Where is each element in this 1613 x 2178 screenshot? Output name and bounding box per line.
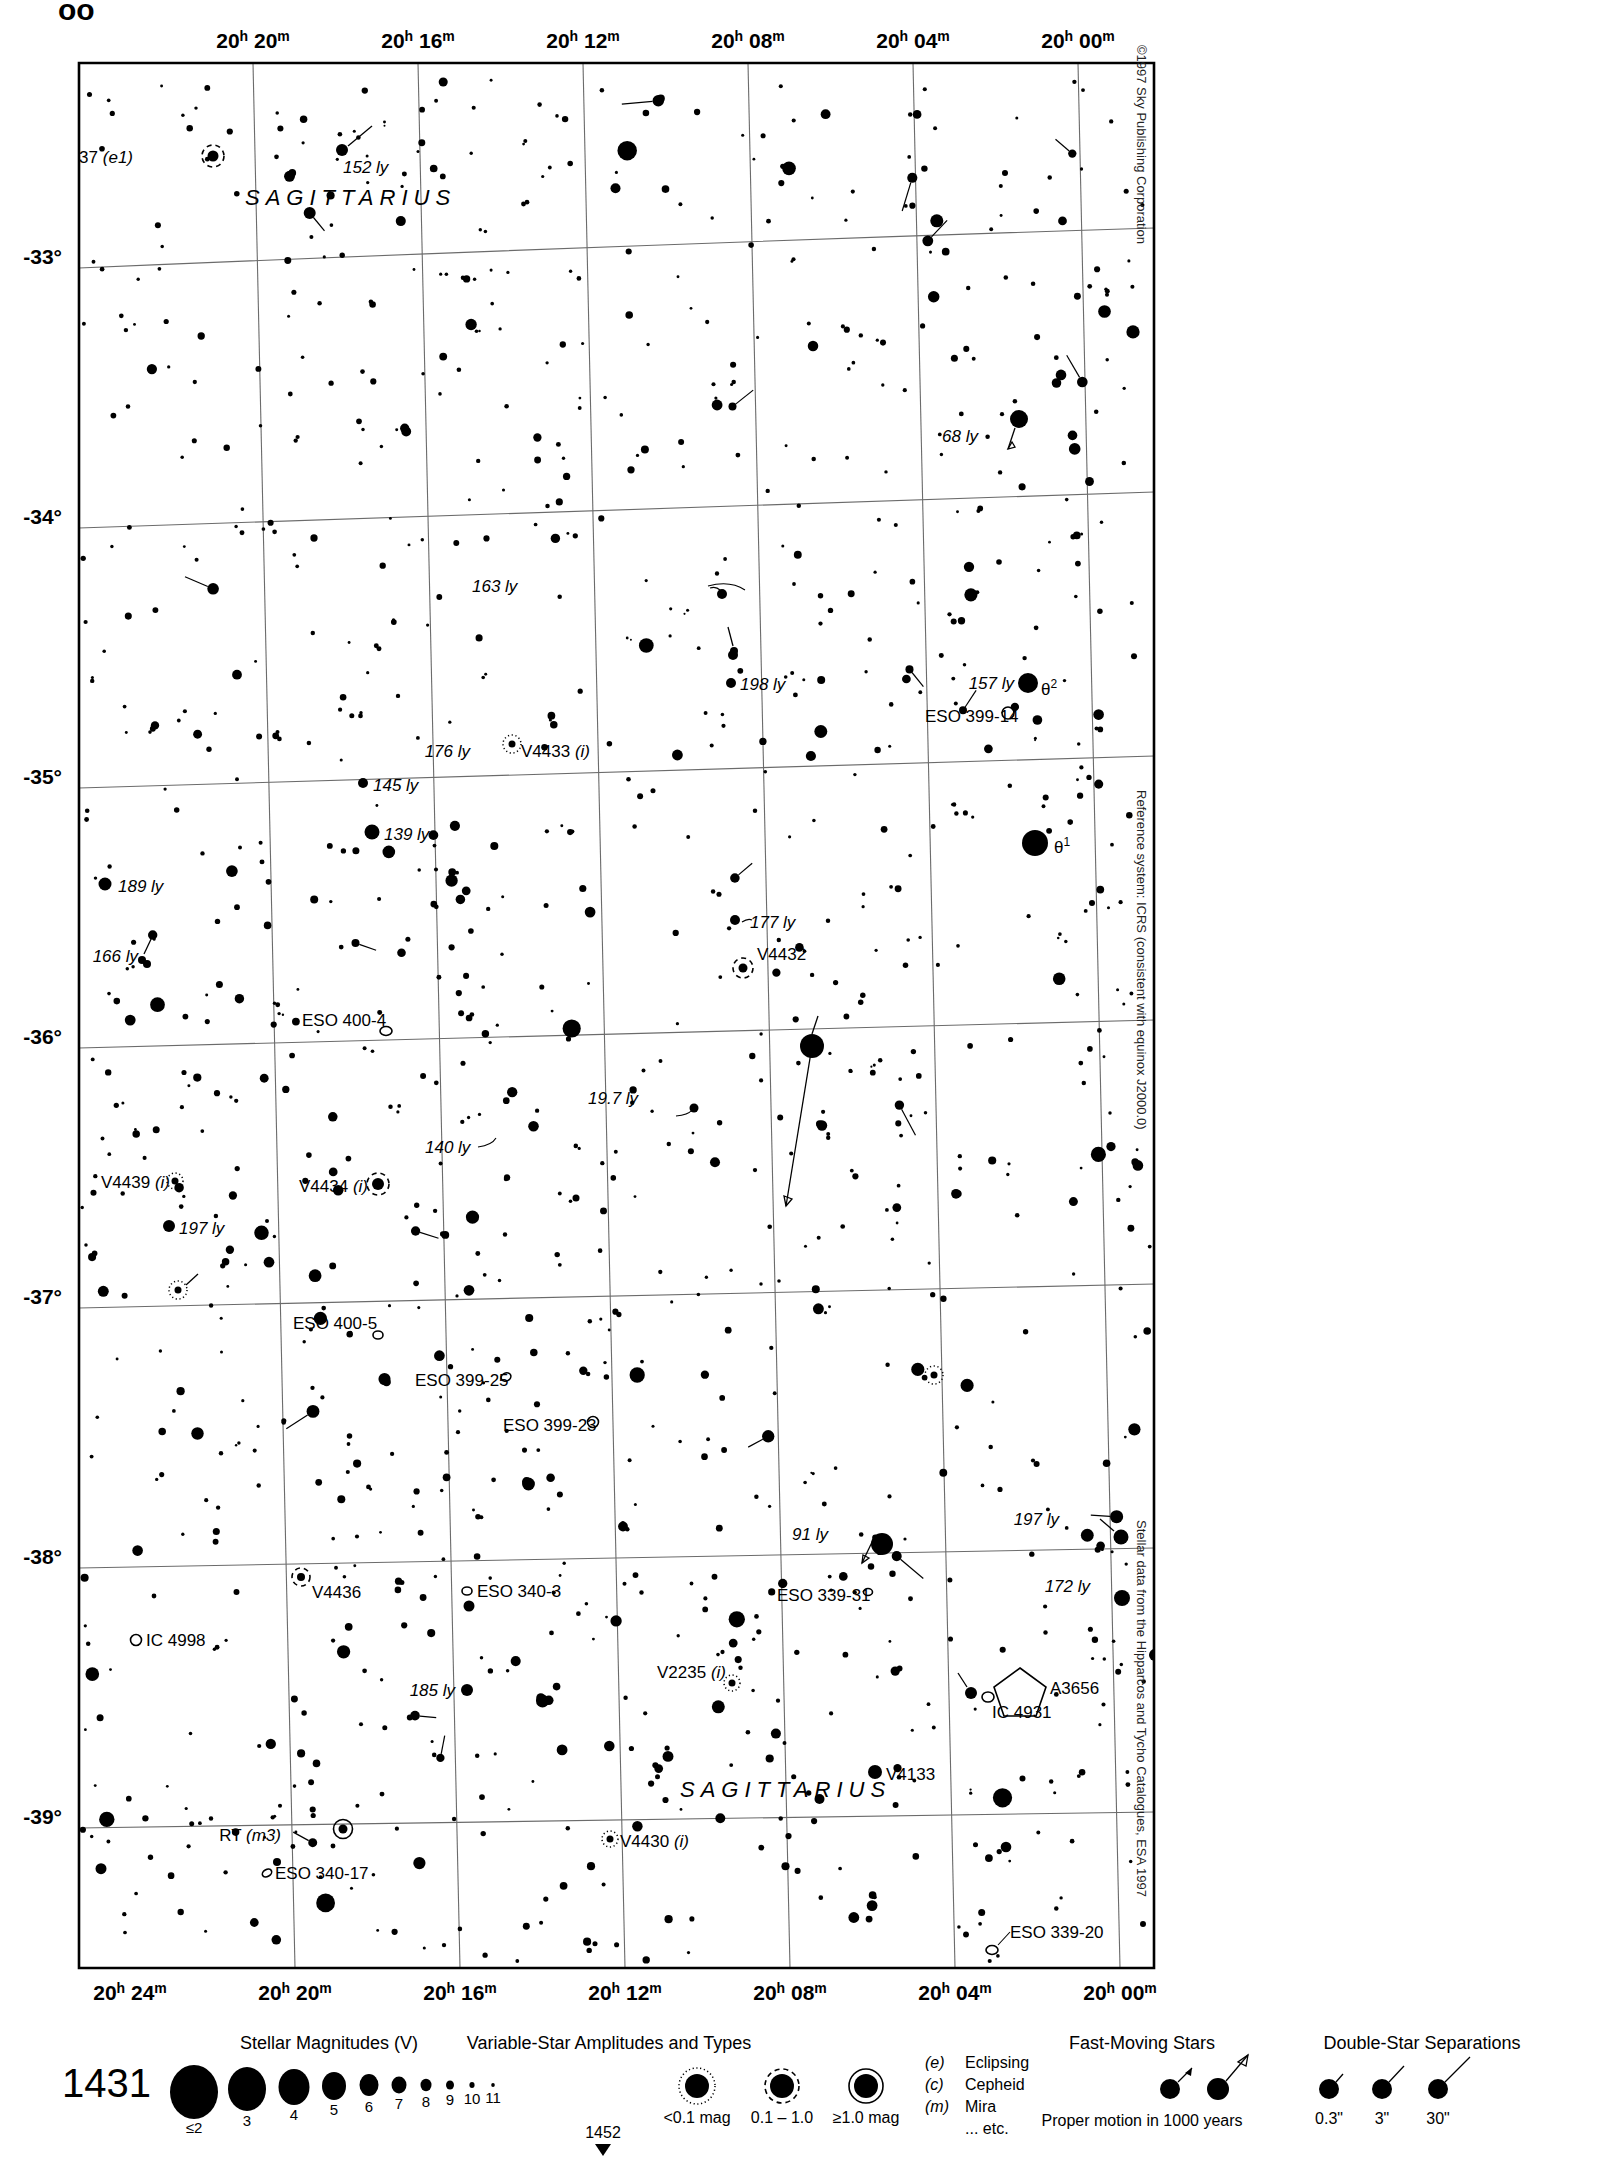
ra-tick-bottom-1: 20h 20m: [258, 1980, 332, 2004]
label-189ly: 189 ly: [118, 877, 165, 896]
legend-mag-3: 5: [330, 2101, 338, 2118]
star-177ly: [730, 915, 740, 925]
label-a3656: A3656: [1050, 1679, 1099, 1698]
legend-mag-8: 10: [464, 2090, 481, 2107]
adjacent-chart-number: 1452: [585, 2124, 621, 2141]
legend-double-1: 3": [1375, 2110, 1390, 2127]
object-theta2: [1018, 673, 1038, 693]
star-197ly-right: [1114, 1530, 1129, 1545]
label-177ly: 177 ly: [750, 913, 797, 932]
legend-var-amp-1: 0.1 – 1.0: [751, 2109, 813, 2126]
ra-tick-top-1: 20h 16m: [381, 28, 455, 52]
label-v4436: V4436: [312, 1583, 361, 1602]
legend-mag-9: 11: [485, 2089, 501, 2106]
label-v4434: V4434 (i): [299, 1177, 368, 1196]
label-157ly: 157 ly: [969, 674, 1016, 693]
dec-tick-3: -36°: [23, 1025, 62, 1048]
ra-tick-bottom-5: 20h 04m: [918, 1980, 992, 2004]
label-152ly: 152 ly: [343, 158, 390, 177]
label-v4432: V4432: [757, 945, 806, 964]
legend-mag-4: 6: [365, 2098, 373, 2115]
label-v4439: V4439 (i): [101, 1173, 170, 1192]
star-172ly: [1114, 1590, 1130, 1606]
label-v4133: V4133: [886, 1765, 935, 1784]
star-theta1: [1022, 830, 1048, 856]
ra-tick-top-3: 20h 08m: [711, 28, 785, 52]
star-197ly-left: [163, 1220, 175, 1232]
constellation-label-sagittarius-top: SAGITTARIUS: [245, 185, 456, 210]
label-91ly: 91 ly: [792, 1525, 829, 1544]
label-rt: RT (m3): [219, 1826, 281, 1845]
ra-tick-bottom-0: 20h 24m: [93, 1980, 167, 2004]
ra-tick-top-2: 20h 12m: [546, 28, 620, 52]
credit-data-source: Stellar data from the Hipparcos and Tych…: [1134, 1520, 1149, 1897]
star-145ly: [358, 778, 368, 788]
label-eso-339-25: ESO 339-25: [1168, 1647, 1262, 1666]
dec-tick-6: -39°: [23, 1805, 62, 1828]
legend-variables-title: Variable-Star Amplitudes and Types: [467, 2033, 752, 2053]
sky-map-area: V4437 (e1) 152 ly 68 ly 163 ly: [49, 63, 1262, 1968]
legend-mag-7: 9: [446, 2091, 454, 2108]
label-198ly: 198 ly: [740, 675, 787, 694]
legend-variable-stars: Variable-Star Amplitudes and Types <0.1 …: [467, 2033, 1029, 2137]
label-eso-400-4: ESO 400-4: [302, 1011, 386, 1030]
dec-tick-1: -34°: [23, 505, 62, 528]
legend-double-2: 30": [1426, 2110, 1449, 2127]
label-ic-4998: IC 4998: [146, 1631, 206, 1650]
star-139ly: [365, 825, 380, 840]
label-185ly: 185 ly: [410, 1681, 457, 1700]
label-ic-4931: IC 4931: [992, 1703, 1052, 1722]
label-eso-339-31: ESO 339-31: [777, 1586, 871, 1605]
ra-labels-top: 20h 20m 20h 16m 20h 12m 20h 08m 20h 04m …: [216, 28, 1115, 52]
legend-stellar-magnitudes: Stellar Magnitudes (V) ≤2 3 4 5 6 7 8 9 …: [170, 2033, 501, 2136]
label-eso-339-20: ESO 339-20: [1010, 1923, 1104, 1942]
label-145ly: 145 ly: [373, 776, 420, 795]
label-v2235: V2235 (i): [657, 1663, 726, 1682]
label-172ly: 172 ly: [1045, 1577, 1092, 1596]
label-163ly: 163 ly: [472, 577, 519, 596]
ra-tick-top-5: 20h 00m: [1041, 28, 1115, 52]
legend-magnitudes-title: Stellar Magnitudes (V): [240, 2033, 418, 2053]
legend-double-0: 0.3": [1315, 2110, 1343, 2127]
page-top-partial: ᴏᴏ: [58, 0, 95, 26]
legend-mag-5: 7: [395, 2095, 403, 2112]
ra-tick-bottom-4: 20h 08m: [753, 1980, 827, 2004]
legend-var-type-code-2: (m): [925, 2098, 949, 2115]
label-v4433: V4433 (i): [521, 742, 590, 761]
label-139ly: 139 ly: [384, 825, 431, 844]
legend-fastmoving-caption: Proper motion in 1000 years: [1042, 2112, 1243, 2129]
legend-mag-0: ≤2: [186, 2119, 203, 2136]
legend-var-type-code-1: (c): [925, 2076, 944, 2093]
galaxy-eso-339-25: [1156, 1648, 1166, 1656]
legend-double-star-separations: Double-Star Separations 0.3" 3" 30": [1315, 2033, 1521, 2127]
label-176ly: 176 ly: [425, 742, 472, 761]
dec-tick-4: -37°: [23, 1285, 62, 1308]
credit-copyright: ©1997 Sky Publishing Corporation: [1134, 45, 1149, 244]
legend-var-type-name-1: Cepheid: [965, 2076, 1025, 2093]
dec-labels: -33° -34° -35° -36° -37° -38° -39°: [23, 245, 62, 1828]
legend-mag-2: 4: [290, 2106, 298, 2123]
chart-number: 1431: [62, 2061, 151, 2105]
star-189ly: [99, 878, 112, 891]
star-chart-page: ᴏᴏ 20h 20m 20h 16m 20h 12m 20h 08m 20h 0…: [0, 0, 1613, 2178]
label-eso-340-17: ESO 340-17: [275, 1864, 369, 1883]
ra-tick-bottom-2: 20h 16m: [423, 1980, 497, 2004]
star-near-eso-340-3: [464, 1601, 475, 1612]
label-eso-399-23: ESO 399-23: [503, 1416, 597, 1435]
legend-var-type-code-0: (e): [925, 2054, 945, 2071]
legend-var-amp-0: <0.1 mag: [663, 2109, 730, 2126]
star-near-eso-340-17: [273, 1858, 281, 1866]
credit-reference-system: Reference system: ICRS (consistent with …: [1134, 790, 1149, 1130]
legend-fast-moving-stars: Fast-Moving Stars Proper motion in 1000 …: [1042, 2033, 1249, 2129]
legend-mag-6: 8: [422, 2093, 430, 2110]
legend-var-amp-2: ≥1.0 mag: [833, 2109, 900, 2126]
legend-mag-1: 3: [243, 2112, 251, 2129]
legend-var-type-name-3: ... etc.: [965, 2120, 1009, 2137]
label-v4437: V4437 (e1): [49, 148, 133, 167]
dec-tick-2: -35°: [23, 765, 62, 788]
ra-tick-top-0: 20h 20m: [216, 28, 290, 52]
dec-tick-0: -33°: [23, 245, 62, 268]
label-eso-400-5: ESO 400-5: [293, 1314, 377, 1333]
star-near-ic-4931: [965, 1687, 977, 1699]
legend-fastmoving-title: Fast-Moving Stars: [1069, 2033, 1215, 2053]
